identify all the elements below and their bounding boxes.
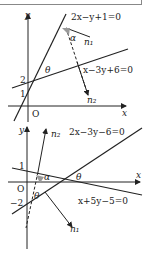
x-axis-label: x	[122, 108, 127, 118]
line2-label: x+5y−5=0	[78, 196, 128, 206]
line1-label: 2x−y+1=0	[71, 12, 121, 22]
y-axis-label: y	[24, 10, 31, 20]
y-axis-label: y	[18, 125, 25, 135]
angle-theta: θ	[76, 172, 82, 182]
angle-theta-2: θ	[34, 191, 40, 201]
vector-n1-label: n₁	[70, 224, 79, 234]
x-axis-label: x	[136, 170, 141, 180]
origin-label: O	[32, 109, 39, 119]
angle-alpha: α	[44, 172, 50, 182]
vector-n2-label: n₂	[51, 129, 61, 139]
line1-label: 2x−3y−6=0	[69, 127, 125, 137]
tick-minus-2: −2	[10, 198, 23, 208]
tick-1: 1	[19, 161, 25, 171]
vector-n1-label: n₁	[84, 37, 93, 47]
tick-2: 2	[20, 75, 26, 85]
line2-label: x−3y+6=0	[83, 65, 133, 75]
vector-n2-label: n₂	[87, 95, 97, 105]
origin-label: O	[17, 184, 24, 194]
angle-theta: θ	[45, 65, 51, 75]
tick-1: 1	[20, 89, 26, 99]
diagram-2: y x O 1 −2 2x−3y−6=0 x+5y−5=0 n₂ n₁ α θ …	[0, 125, 151, 267]
diagram-1: y x O 2 1 2x−y+1=0 x−3y+6=0 n₁ n₂ α θ	[0, 0, 151, 125]
angle-alpha: α	[70, 33, 76, 43]
